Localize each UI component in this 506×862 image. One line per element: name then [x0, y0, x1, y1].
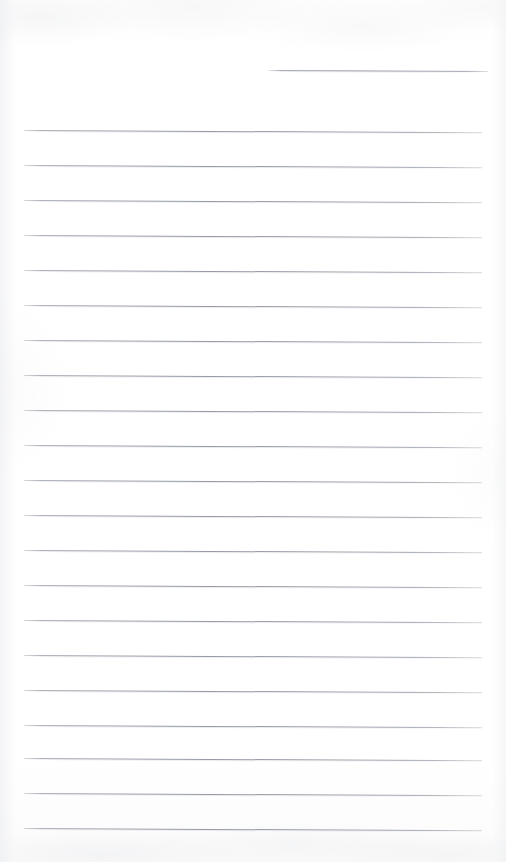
rule-line: [24, 270, 482, 273]
rule-line: [24, 793, 482, 796]
rule-line: [24, 165, 482, 168]
rule-line: [24, 340, 482, 343]
rule-line-partial: [268, 70, 488, 72]
rule-line: [24, 410, 482, 413]
rule-line: [24, 235, 482, 238]
rule-line: [24, 758, 482, 761]
rule-line: [24, 725, 482, 728]
rule-line: [24, 515, 482, 518]
scanned-page: [0, 0, 506, 862]
rule-line: [24, 445, 482, 448]
rule-line: [24, 690, 482, 693]
rule-line: [24, 200, 482, 203]
rule-line: [24, 655, 482, 658]
rule-line: [24, 585, 482, 588]
rule-line: [24, 375, 482, 378]
rule-line: [24, 480, 482, 483]
ruled-lines-layer: [0, 0, 506, 862]
rule-line: [24, 130, 482, 133]
rule-line: [24, 620, 482, 623]
rule-line: [24, 305, 482, 308]
rule-line: [24, 828, 482, 831]
rule-line: [24, 550, 482, 553]
